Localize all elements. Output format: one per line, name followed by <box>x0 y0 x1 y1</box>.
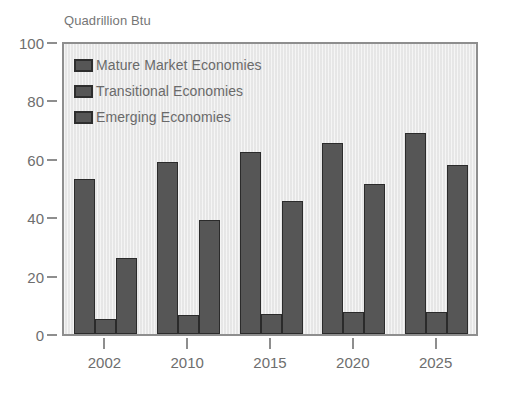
y-tick-label: 80 <box>27 93 44 110</box>
bar <box>426 312 447 334</box>
bar <box>157 162 178 334</box>
x-tick-mark <box>435 338 437 349</box>
bar <box>447 165 468 334</box>
x-axis: 20022010201520202025 <box>62 336 478 398</box>
bar <box>282 201 303 334</box>
y-tick-mark <box>47 42 57 44</box>
y-axis: 020406080100 <box>0 0 62 398</box>
legend-item: Mature Market Economies <box>74 52 262 78</box>
bar-chart: Quadrillion Btu 020406080100 Mature Mark… <box>0 0 506 398</box>
y-tick-label: 20 <box>27 268 44 285</box>
bar <box>178 315 199 334</box>
legend-item: Emerging Economies <box>74 104 262 130</box>
x-tick-mark <box>103 338 105 349</box>
y-tick-label: 60 <box>27 151 44 168</box>
x-tick-label: 2010 <box>171 354 204 371</box>
bar <box>405 133 426 334</box>
chart-title: Quadrillion Btu <box>64 13 151 28</box>
y-tick-mark <box>47 217 57 219</box>
bar <box>364 184 385 334</box>
x-tick-label: 2015 <box>253 354 286 371</box>
legend-swatch-icon <box>74 59 93 72</box>
x-tick-mark <box>352 338 354 349</box>
bar <box>116 258 137 334</box>
y-tick-label: 100 <box>19 35 44 52</box>
y-tick-mark <box>47 276 57 278</box>
legend-swatch-icon <box>74 85 93 98</box>
x-tick-label: 2025 <box>419 354 452 371</box>
chart-legend: Mature Market EconomiesTransitional Econ… <box>74 52 262 130</box>
bar <box>261 314 282 334</box>
x-tick-mark <box>186 338 188 349</box>
bar <box>199 220 220 334</box>
legend-swatch-icon <box>74 111 93 124</box>
bar <box>322 143 343 334</box>
bar <box>240 152 261 335</box>
bar <box>343 312 364 334</box>
y-tick-mark <box>47 159 57 161</box>
x-tick-mark <box>269 338 271 349</box>
y-tick-label: 0 <box>36 327 44 344</box>
x-tick-label: 2020 <box>336 354 369 371</box>
legend-label: Mature Market Economies <box>96 57 262 73</box>
y-tick-label: 40 <box>27 210 44 227</box>
y-tick-mark <box>47 100 57 102</box>
bar <box>95 319 116 334</box>
y-tick-mark <box>47 334 57 336</box>
x-tick-label: 2002 <box>88 354 121 371</box>
bar <box>74 179 95 334</box>
legend-label: Emerging Economies <box>96 109 231 125</box>
legend-item: Transitional Economies <box>74 78 262 104</box>
legend-label: Transitional Economies <box>96 83 243 99</box>
